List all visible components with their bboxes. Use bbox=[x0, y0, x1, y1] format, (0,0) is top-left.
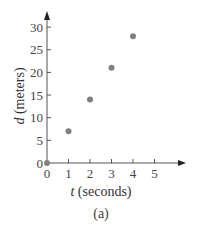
x-axis-arrow-icon bbox=[178, 160, 186, 166]
y-tick-label: 30 bbox=[30, 20, 43, 35]
axes bbox=[44, 11, 186, 166]
data-point bbox=[44, 160, 50, 166]
x-tick-label: 2 bbox=[87, 166, 94, 181]
x-tick-label: 1 bbox=[65, 166, 72, 181]
y-tick-label: 0 bbox=[37, 156, 44, 171]
y-axis-arrow-icon bbox=[44, 11, 50, 20]
y-tick-label: 20 bbox=[30, 65, 43, 80]
data-point bbox=[130, 33, 136, 39]
data-points bbox=[44, 33, 136, 166]
y-tick-label: 15 bbox=[30, 88, 43, 103]
x-tick-label: 4 bbox=[130, 166, 137, 181]
y-tick-label: 10 bbox=[30, 110, 43, 125]
y-ticks: 051015202530 bbox=[30, 20, 51, 171]
y-tick-label: 25 bbox=[30, 42, 43, 57]
y-axis-label: d (meters) bbox=[12, 67, 28, 124]
scatter-chart: 012345 051015202530 d (meters) t (second… bbox=[0, 0, 206, 232]
data-point bbox=[66, 128, 72, 134]
x-axis-label: t (seconds) bbox=[70, 184, 131, 200]
data-point bbox=[87, 97, 93, 103]
data-point bbox=[109, 65, 115, 71]
x-ticks: 012345 bbox=[44, 159, 158, 181]
figure-caption: (a) bbox=[93, 206, 109, 222]
y-tick-label: 5 bbox=[37, 133, 44, 148]
x-tick-label: 3 bbox=[108, 166, 115, 181]
x-tick-label: 5 bbox=[151, 166, 158, 181]
x-tick-label: 0 bbox=[44, 166, 51, 181]
